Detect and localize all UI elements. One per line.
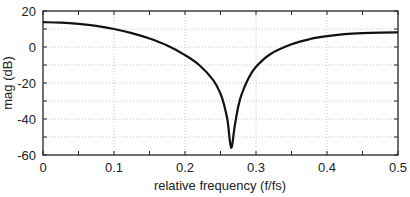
x-tick-label: 0.4 bbox=[318, 160, 336, 175]
y-tick-label: 0 bbox=[29, 40, 36, 55]
y-tick-label: 20 bbox=[22, 4, 36, 19]
x-tick-label: 0.3 bbox=[247, 160, 265, 175]
y-axis-title: mag (dB) bbox=[0, 56, 15, 109]
x-tick-label: 0.5 bbox=[389, 160, 407, 175]
x-tick-label: 0.1 bbox=[105, 160, 123, 175]
grid-lines bbox=[43, 11, 398, 155]
y-tick-labels: 200-20-40-60 bbox=[17, 4, 36, 163]
chart: 00.10.20.30.40.5 200-20-40-60 relative f… bbox=[0, 0, 410, 197]
x-tick-label: 0.2 bbox=[176, 160, 194, 175]
y-tick-label: -20 bbox=[17, 76, 36, 91]
y-tick-label: -40 bbox=[17, 112, 36, 127]
x-axis-title: relative frequency (f/fs) bbox=[154, 178, 286, 193]
magnitude-curve bbox=[43, 22, 398, 148]
y-tick-label: -60 bbox=[17, 148, 36, 163]
x-tick-labels: 00.10.20.30.40.5 bbox=[39, 160, 407, 175]
x-tick-label: 0 bbox=[39, 160, 46, 175]
